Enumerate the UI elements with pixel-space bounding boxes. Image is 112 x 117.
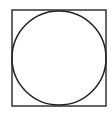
- inscribed-circle-shape: [12, 11, 106, 105]
- diagram-canvas: [0, 0, 112, 117]
